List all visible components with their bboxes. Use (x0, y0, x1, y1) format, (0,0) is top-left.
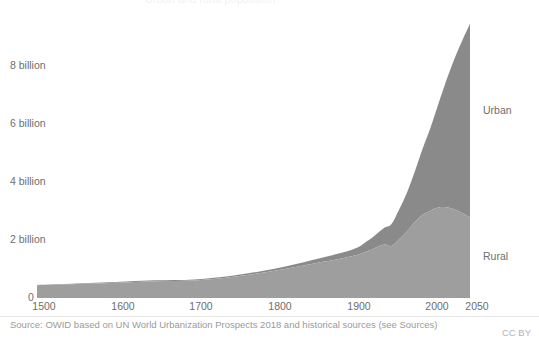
y-tick-4b: 4 billion (10, 176, 46, 187)
license-label: CC BY (502, 328, 531, 338)
footer-divider (0, 316, 539, 317)
series-label-urban: Urban (483, 105, 512, 116)
x-tick-2050: 2050 (465, 301, 488, 312)
y-tick-2b: 2 billion (10, 234, 46, 245)
y-tick-8b: 8 billion (10, 60, 46, 71)
plot-area (0, 0, 539, 306)
stacked-area-svg (0, 0, 539, 306)
x-tick-1500: 1500 (32, 301, 55, 312)
x-tick-1900: 1900 (347, 301, 370, 312)
x-tick-2000: 2000 (425, 301, 448, 312)
x-tick-1700: 1700 (189, 301, 212, 312)
source-note: Source: OWID based on UN World Urbanizat… (10, 320, 438, 330)
y-tick-6b: 6 billion (10, 118, 46, 129)
x-tick-1600: 1600 (111, 301, 134, 312)
chart-container: Urban and rural population 0 2 billion 4… (0, 0, 539, 339)
series-label-rural: Rural (483, 251, 508, 262)
x-tick-1800: 1800 (268, 301, 291, 312)
